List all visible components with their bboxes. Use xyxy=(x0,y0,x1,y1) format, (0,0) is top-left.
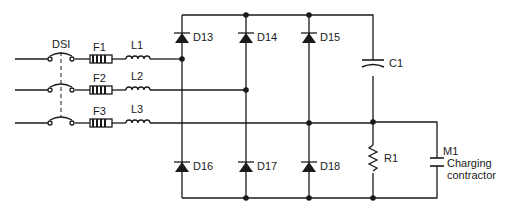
diode-d18-label: D18 xyxy=(320,160,340,172)
contactor-symbol xyxy=(430,158,444,166)
disconnect-switch xyxy=(48,52,74,125)
fuse-f2-label: F2 xyxy=(93,72,106,84)
circuit-diagram: DSI F1 F2 F3 L1 L2 L3 D13 D14 xyxy=(0,0,510,212)
diode-d16-label: D16 xyxy=(193,160,213,172)
diode-d13-label: D13 xyxy=(193,31,213,43)
resistor-label: R1 xyxy=(384,152,398,164)
contactor-desc-1: Charging xyxy=(447,157,492,169)
capacitor-symbol xyxy=(362,60,384,67)
contactor-desc-2: contractor xyxy=(447,169,496,181)
phase-lines xyxy=(15,59,373,123)
capacitor-label: C1 xyxy=(389,57,403,69)
fuse-f1-label: F1 xyxy=(93,41,106,53)
diode-d15-label: D15 xyxy=(320,31,340,43)
inductor-l2-label: L2 xyxy=(131,70,143,82)
switch-label: DSI xyxy=(52,38,70,50)
resistor-symbol xyxy=(368,145,378,173)
fuse-f3-label: F3 xyxy=(93,105,106,117)
diode-d14-label: D14 xyxy=(257,31,277,43)
diode-d17-label: D17 xyxy=(257,160,277,172)
contactor-label: M1 xyxy=(443,145,458,157)
inductor-l1-label: L1 xyxy=(131,39,143,51)
inductor-l3-label: L3 xyxy=(131,103,143,115)
